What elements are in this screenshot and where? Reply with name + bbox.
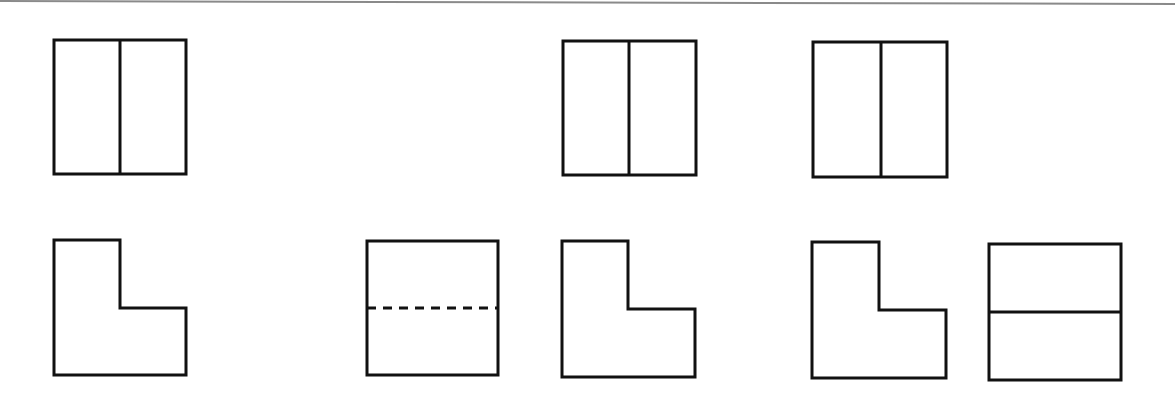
r1-f3-rect-vertical-split — [563, 41, 696, 175]
l-shape-outline — [54, 240, 186, 375]
r2-f3-l-shape — [562, 241, 695, 377]
projection-diagram-canvas — [0, 0, 1175, 401]
r2-f5-rect-horizontal-split — [989, 244, 1121, 380]
r1-f1-rect-vertical-split — [54, 40, 186, 174]
bottom-row-figures — [54, 240, 1121, 380]
top-edge-line — [0, 1, 1175, 4]
r2-f1-l-shape — [54, 240, 186, 375]
r2-f2-rect-horizontal-split — [367, 241, 498, 375]
r1-f4-rect-vertical-split — [813, 42, 947, 177]
top-edge-line — [0, 1, 1175, 4]
top-row-figures — [54, 40, 947, 177]
r2-f4-l-shape — [812, 242, 946, 378]
l-shape-outline — [812, 242, 946, 378]
l-shape-outline — [562, 241, 695, 377]
